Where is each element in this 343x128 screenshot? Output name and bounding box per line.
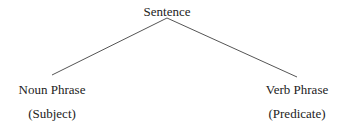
edge-sentence-verb-phrase bbox=[167, 18, 297, 77]
edge-sentence-noun-phrase bbox=[52, 18, 167, 75]
noun-phrase-label: Noun Phrase bbox=[19, 82, 86, 97]
verb-phrase-label: Verb Phrase bbox=[266, 82, 328, 97]
root-node-label: Sentence bbox=[144, 4, 191, 19]
predicate-sublabel: (Predicate) bbox=[268, 106, 325, 121]
subject-sublabel: (Subject) bbox=[28, 106, 76, 121]
